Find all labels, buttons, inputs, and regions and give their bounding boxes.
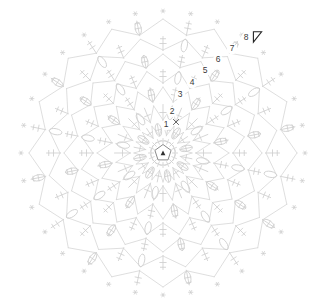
stitch-crossbar <box>181 163 185 168</box>
v-stitch-arm <box>68 53 96 58</box>
edge-star-icon <box>43 72 47 76</box>
v-stitch-arm <box>49 153 60 176</box>
stitch-crossbar <box>56 221 60 226</box>
round-label-3: 3 <box>178 89 183 99</box>
v-stitch-arm <box>138 204 153 214</box>
stitch-crossbar <box>292 176 293 181</box>
round-label-2: 2 <box>170 106 175 116</box>
stitch-crossbar <box>125 98 129 101</box>
stitch-crossbar <box>267 221 271 226</box>
v-stitch-arm <box>211 223 233 225</box>
v-stitch-arm <box>206 124 224 128</box>
v-stitch-arm <box>163 271 186 287</box>
stitch-crossbar <box>271 77 274 81</box>
chain-oval <box>81 134 95 142</box>
stitch-crossbar <box>84 202 88 207</box>
v-stitch-arm <box>211 81 233 83</box>
stitch-crossbar <box>243 97 246 101</box>
stitch-crossbar <box>193 200 198 204</box>
v-stitch-arm <box>116 106 134 109</box>
stitch-crossbar <box>81 205 84 209</box>
round-label-6: 6 <box>216 54 221 64</box>
v-stitch-arm <box>39 102 45 130</box>
v-stitch-arm <box>96 29 111 53</box>
v-stitch-arm <box>67 89 68 114</box>
v-stitch-arm <box>163 256 186 267</box>
v-stitch-arm <box>115 225 125 244</box>
v-stitch-arm <box>94 107 98 126</box>
v-stitch-arm <box>163 186 172 200</box>
v-stitch-arm <box>281 130 297 153</box>
round-label-5: 5 <box>203 65 208 75</box>
v-stitch-arm <box>140 39 163 50</box>
stitch-crossbar <box>215 233 219 236</box>
v-stitch-arm <box>233 201 235 223</box>
stitch-crossbar <box>56 80 60 85</box>
v-stitch-arm <box>124 248 141 267</box>
v-stitch-arm <box>258 192 259 217</box>
edge-star-icon <box>261 252 265 256</box>
v-stitch-arm <box>117 218 136 222</box>
round-label-4: 4 <box>190 77 195 87</box>
stitch-crossbar <box>109 74 114 78</box>
edge-star-icon <box>133 290 137 294</box>
edge-star-icon <box>60 51 64 55</box>
v-stitch-arm <box>116 162 133 165</box>
v-stitch-arm <box>193 140 210 143</box>
stitch-crossbar <box>212 229 217 233</box>
edge-star-icon <box>106 20 110 24</box>
stitch-crossbar <box>90 46 95 50</box>
edge-star-icon <box>22 179 26 183</box>
v-stitch-arm <box>115 62 125 81</box>
v-stitch-arm <box>236 80 260 88</box>
edge-star-icon <box>189 12 193 16</box>
v-stitch-arm <box>68 248 96 253</box>
v-stitch-arm <box>94 104 114 107</box>
v-stitch-arm <box>90 226 98 250</box>
round-label-1: 1 <box>164 119 169 129</box>
v-stitch-arm <box>214 253 229 277</box>
edge-star-icon <box>30 205 34 209</box>
edge-star-icon <box>43 230 47 234</box>
v-stitch-arm <box>209 84 212 104</box>
v-stitch-arm <box>49 176 68 193</box>
v-stitch-arm <box>248 136 262 153</box>
v-stitch-arm <box>227 57 235 81</box>
v-stitch-arm <box>163 223 179 234</box>
v-stitch-arm <box>140 271 163 287</box>
v-stitch-arm <box>112 271 140 277</box>
v-stitch-arm <box>64 153 78 170</box>
crochet-chart-svg: 12345678 <box>0 0 322 307</box>
v-stitch-arm <box>96 253 111 277</box>
chain-oval <box>174 71 182 85</box>
v-stitch-arm <box>91 201 93 223</box>
v-stitch-arm <box>67 217 91 225</box>
chain-oval <box>134 112 146 126</box>
v-stitch-arm <box>72 105 91 115</box>
edge-star-icon <box>106 282 110 286</box>
round-label-7: 7 <box>230 43 235 53</box>
stitch-crossbar <box>186 23 191 24</box>
v-stitch-arm <box>99 248 124 249</box>
v-stitch-arm <box>49 114 68 131</box>
stitch-crossbar <box>173 132 178 136</box>
v-stitch-arm <box>39 204 63 219</box>
edge-star-icon <box>161 293 165 297</box>
v-stitch-arm <box>163 54 180 68</box>
v-stitch-arm <box>248 153 262 170</box>
stitch-crossbar <box>109 229 114 233</box>
v-stitch-arm <box>63 58 68 86</box>
v-stitch-arm <box>281 176 287 204</box>
edge-star-icon <box>215 20 219 24</box>
stitch-crossbar <box>141 248 146 249</box>
slip-stitch-cross-icon <box>173 119 178 124</box>
v-stitch-arm <box>186 29 214 35</box>
v-stitch-arm <box>49 130 60 153</box>
v-stitch-arm <box>263 86 287 101</box>
v-stitch-arm <box>134 92 138 110</box>
v-stitch-arm <box>228 126 245 137</box>
stitch-crossbar <box>135 282 140 283</box>
stitch-crossbar <box>181 137 185 142</box>
v-stitch-arm <box>93 81 115 83</box>
stitch-crossbar <box>112 118 116 123</box>
